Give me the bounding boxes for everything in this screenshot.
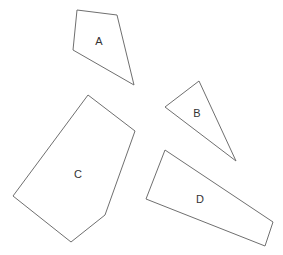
diagram-canvas: A B C D	[0, 0, 283, 255]
shape-a: A	[73, 10, 134, 85]
shapes-svg: A B C D	[0, 0, 283, 255]
shape-c-label: C	[74, 168, 82, 180]
shape-a-label: A	[95, 35, 103, 47]
shape-b-outline	[165, 81, 236, 161]
shape-d: D	[146, 150, 273, 246]
shape-d-outline	[146, 150, 273, 246]
shape-a-outline	[73, 10, 134, 85]
shape-b-label: B	[193, 107, 200, 119]
shape-c: C	[13, 95, 135, 242]
shape-d-label: D	[196, 193, 204, 205]
shape-b: B	[165, 81, 236, 161]
